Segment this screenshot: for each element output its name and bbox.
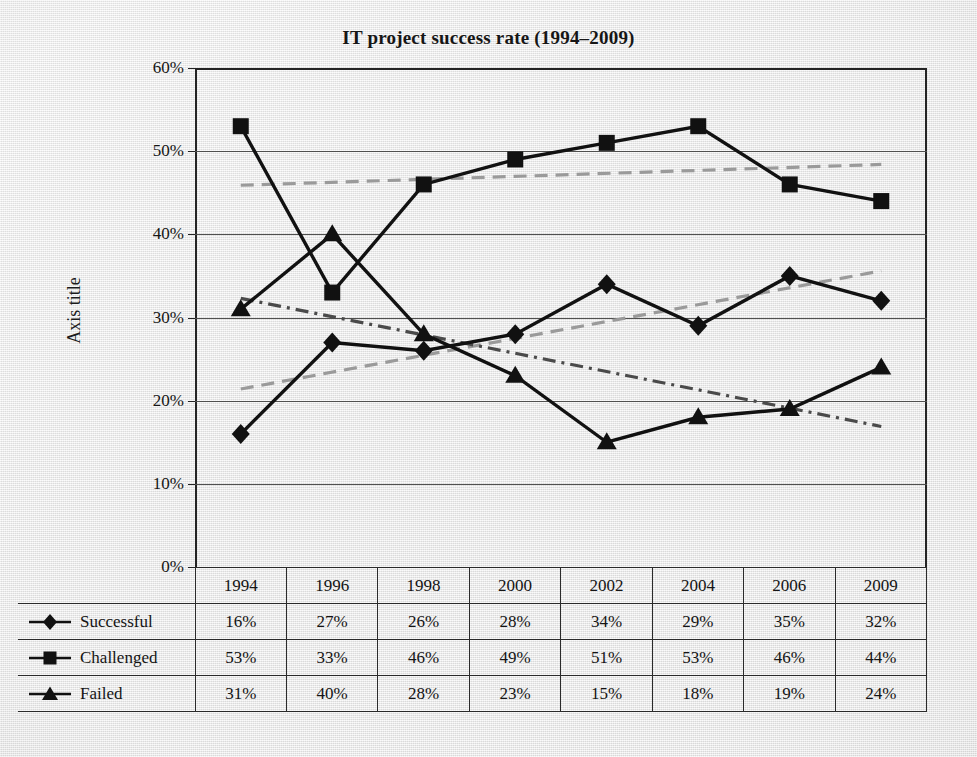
legend-marker-square-icon (27, 648, 73, 668)
marker-diamond (506, 324, 524, 344)
legend-item-label: Successful (80, 612, 153, 632)
plot-series-layer (195, 68, 927, 567)
table-cell: 35% (744, 604, 835, 640)
table-column-header: 1998 (378, 568, 469, 604)
marker-diamond (781, 266, 799, 286)
marker-square (599, 135, 615, 151)
marker-square (233, 118, 249, 134)
marker-square (507, 151, 523, 167)
table-cell: 51% (561, 640, 652, 676)
legend-item-failed[interactable]: Failed (18, 676, 195, 712)
y-tick-label: 60% (124, 58, 184, 78)
data-point-successful-2000 (506, 324, 524, 344)
table-cell: 32% (835, 604, 926, 640)
data-point-successful-2002 (598, 274, 616, 294)
table-cell: 44% (835, 640, 926, 676)
marker-square (324, 285, 340, 301)
data-point-failed-2009 (871, 357, 891, 374)
table-row: Successful16%27%26%28%34%29%35%32% (18, 604, 927, 640)
y-tick-mark (188, 151, 195, 152)
table-row: Challenged53%33%46%49%51%53%46%44% (18, 640, 927, 676)
data-point-challenged-1998 (416, 176, 432, 192)
marker-square (416, 176, 432, 192)
legend-diamond (43, 614, 57, 630)
marker-square (690, 118, 706, 134)
table-cell: 46% (744, 640, 835, 676)
legend-item-label: Failed (80, 684, 123, 704)
y-axis-title: Axis title (64, 231, 85, 391)
table-column-header: 2006 (744, 568, 835, 604)
series-line-challenged (241, 126, 882, 292)
table-cell: 27% (286, 604, 377, 640)
table-cell: 49% (469, 640, 560, 676)
marker-diamond (872, 291, 890, 311)
legend-item-label: Challenged (80, 648, 157, 668)
y-tick-label: 50% (124, 141, 184, 161)
y-tick-mark (188, 318, 195, 319)
chart-figure: IT project success rate (1994–2009) Axis… (0, 0, 977, 757)
table-cell: 15% (561, 676, 652, 712)
data-table: 19941996199820002002200420062009Successf… (18, 567, 927, 712)
table-corner-cell (18, 568, 195, 604)
table-cell: 28% (469, 604, 560, 640)
y-tick-label: 10% (124, 474, 184, 494)
data-point-successful-2006 (781, 266, 799, 286)
y-tick-label: 40% (124, 224, 184, 244)
marker-square (782, 176, 798, 192)
table-cell: 34% (561, 604, 652, 640)
y-tick-mark (188, 484, 195, 485)
data-point-challenged-1996 (324, 285, 340, 301)
data-point-challenged-2002 (599, 135, 615, 151)
marker-triangle (871, 357, 891, 374)
data-point-challenged-2004 (690, 118, 706, 134)
data-point-successful-2009 (872, 291, 890, 311)
marker-square (873, 193, 889, 209)
y-tick-mark (188, 234, 195, 235)
legend-square (44, 652, 57, 665)
table-cell: 40% (286, 676, 377, 712)
table-column-header: 1996 (286, 568, 377, 604)
y-tick-label: 30% (124, 308, 184, 328)
data-point-challenged-1994 (233, 118, 249, 134)
legend-item-successful[interactable]: Successful (18, 604, 195, 640)
y-tick-mark (188, 401, 195, 402)
legend-item-challenged[interactable]: Challenged (18, 640, 195, 676)
table-column-header: 2004 (652, 568, 743, 604)
table-cell: 29% (652, 604, 743, 640)
table-cell: 19% (744, 676, 835, 712)
table-column-header: 1994 (195, 568, 286, 604)
y-tick-mark (188, 68, 195, 69)
marker-diamond (598, 274, 616, 294)
table-cell: 31% (195, 676, 286, 712)
table-cell: 26% (378, 604, 469, 640)
table-header-row: 19941996199820002002200420062009 (18, 568, 927, 604)
table-cell: 18% (652, 676, 743, 712)
table-cell: 28% (378, 676, 469, 712)
table-cell: 53% (652, 640, 743, 676)
y-tick-label: 20% (124, 391, 184, 411)
chart-title: IT project success rate (1994–2009) (0, 27, 977, 49)
legend-marker-triangle-icon (27, 684, 73, 704)
data-point-challenged-2000 (507, 151, 523, 167)
data-point-failed-1996 (322, 224, 342, 241)
table-column-header: 2009 (835, 568, 926, 604)
marker-diamond (689, 316, 707, 336)
table-column-header: 2000 (469, 568, 560, 604)
table-cell: 33% (286, 640, 377, 676)
table-column-header: 2002 (561, 568, 652, 604)
data-point-challenged-2009 (873, 193, 889, 209)
table-cell: 24% (835, 676, 926, 712)
plot-area: 0%10%20%30%40%50%60% (195, 68, 927, 567)
table-cell: 53% (195, 640, 286, 676)
data-point-challenged-2006 (782, 176, 798, 192)
table-cell: 16% (195, 604, 286, 640)
table-row: Failed31%40%28%23%15%18%19%24% (18, 676, 927, 712)
table-cell: 46% (378, 640, 469, 676)
table-cell: 23% (469, 676, 560, 712)
marker-triangle (322, 224, 342, 241)
data-point-successful-2004 (689, 316, 707, 336)
legend-marker-diamond-icon (27, 612, 73, 632)
